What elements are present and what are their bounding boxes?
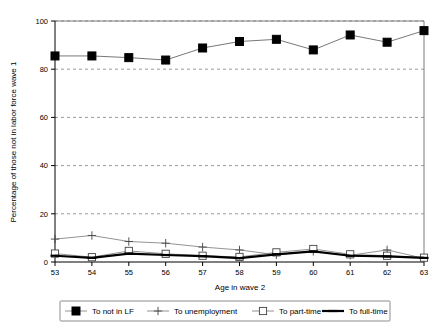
marker-to-not-in-lf-4 xyxy=(199,44,207,52)
x-tick-label-60: 60 xyxy=(309,268,317,277)
marker-to-part-time-legend xyxy=(259,307,266,314)
x-tick-label-62: 62 xyxy=(383,268,391,277)
chart-figure: 020406080100 5354555657585960616263 Perc… xyxy=(0,0,438,332)
y-tick-label-100: 100 xyxy=(35,17,48,26)
x-tick-label-59: 59 xyxy=(272,268,280,277)
x-axis-title: Age in wave 2 xyxy=(215,283,266,292)
legend-label-to-unemployment: To unemployment xyxy=(174,307,238,316)
marker-to-not-in-lf-1 xyxy=(88,52,96,60)
legend-label-to-full-time: To full-time xyxy=(349,307,388,316)
x-tick-label-55: 55 xyxy=(125,268,133,277)
marker-to-not-in-lf-2 xyxy=(125,54,133,62)
x-tick-label-54: 54 xyxy=(88,268,96,277)
x-tick-label-56: 56 xyxy=(162,268,170,277)
x-tick-label-61: 61 xyxy=(346,268,354,277)
y-tick-label-40: 40 xyxy=(40,161,48,170)
y-tick-label-0: 0 xyxy=(44,258,48,267)
marker-to-not-in-lf-9 xyxy=(383,38,391,46)
y-tick-label-80: 80 xyxy=(40,65,48,74)
marker-to-part-time-3 xyxy=(162,250,169,257)
line-chart: 020406080100 5354555657585960616263 Perc… xyxy=(0,0,438,332)
y-axis-title: Percentage of those not in labor force w… xyxy=(9,61,18,223)
marker-to-not-in-lf-8 xyxy=(346,31,354,39)
marker-to-not-in-lf-0 xyxy=(51,52,59,60)
marker-to-not-in-lf-6 xyxy=(272,35,280,43)
legend-label-to-not-in-lf: To not in LF xyxy=(92,307,134,316)
marker-to-not-in-lf-7 xyxy=(309,46,317,54)
x-tick-label-53: 53 xyxy=(51,268,59,277)
legend-item-to-not-in-lf[interactable]: To not in LF xyxy=(65,307,134,316)
marker-to-not-in-lf-10 xyxy=(420,27,428,35)
chart-legend: To not in LFTo unemploymentTo part-timeT… xyxy=(60,301,390,321)
y-tick-label-60: 60 xyxy=(40,113,48,122)
x-tick-label-63: 63 xyxy=(420,268,428,277)
y-tick-label-20: 20 xyxy=(40,210,48,219)
legend-label-to-part-time: To part-time xyxy=(279,307,322,316)
marker-to-not-in-lf-3 xyxy=(162,56,170,64)
legend-item-to-part-time[interactable]: To part-time xyxy=(252,307,322,316)
marker-to-not-in-lf-5 xyxy=(236,37,244,45)
x-tick-label-58: 58 xyxy=(235,268,243,277)
x-tick-label-57: 57 xyxy=(198,268,206,277)
marker-to-not-in-lf-legend xyxy=(72,307,80,315)
